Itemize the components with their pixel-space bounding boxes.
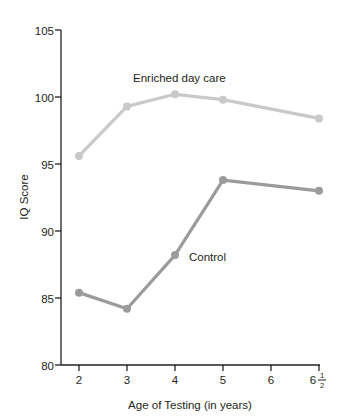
chart-container: 105 100 95 90 85 80 2 3 4 5 6 6 1 2 IQ S… <box>0 0 341 418</box>
data-point <box>123 305 131 313</box>
data-point <box>123 102 131 110</box>
y-tick-label-90: 90 <box>41 226 54 238</box>
series-label-enriched-day-care: Enriched day care <box>133 72 226 84</box>
data-point <box>315 114 323 122</box>
y-tick-label-95: 95 <box>41 159 54 171</box>
x-tick-label-4: 4 <box>172 374 179 386</box>
series-label-control: Control <box>189 251 226 263</box>
data-point <box>219 176 227 184</box>
x-tick-label-6half-whole: 6 <box>310 374 316 386</box>
y-tick-label-105: 105 <box>35 25 54 37</box>
x-tick-label-5: 5 <box>220 374 226 386</box>
x-axis-title: Age of Testing (in years) <box>128 399 252 411</box>
data-point <box>315 187 323 195</box>
data-point <box>75 289 83 297</box>
y-axis-title: IQ Score <box>18 174 30 219</box>
x-tick-label-6half-numerator: 1 <box>320 371 324 380</box>
y-tick-label-85: 85 <box>41 293 54 305</box>
x-tick-label-3: 3 <box>124 374 130 386</box>
data-point <box>75 152 83 160</box>
y-tick-label-100: 100 <box>35 92 54 104</box>
data-point <box>219 96 227 104</box>
x-tick-label-2: 2 <box>76 374 82 386</box>
x-tick-label-6half-denominator: 2 <box>320 381 324 390</box>
chart-background <box>0 0 341 418</box>
iq-score-line-chart: 105 100 95 90 85 80 2 3 4 5 6 6 1 2 IQ S… <box>0 0 341 418</box>
y-tick-label-80: 80 <box>41 360 54 372</box>
x-tick-label-6: 6 <box>268 374 274 386</box>
data-point <box>171 251 179 259</box>
data-point <box>171 90 179 98</box>
